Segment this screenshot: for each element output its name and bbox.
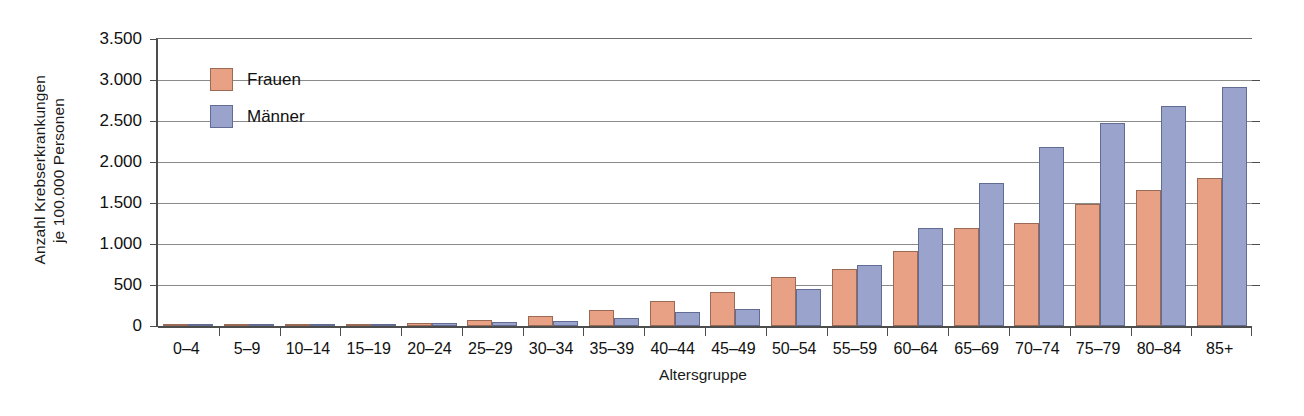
bar-group <box>1070 39 1131 326</box>
x-axis-tick-labels: 0–45–910–1415–1920–2425–2930–3435–3940–4… <box>156 336 1250 362</box>
bar-frauen <box>407 323 432 326</box>
y-axis-tick-mark <box>150 244 158 245</box>
x-axis-tick-label: 0–4 <box>156 336 217 362</box>
bar-maenner <box>614 318 639 326</box>
x-axis-title: Altersgruppe <box>156 366 1250 384</box>
bar-group <box>766 39 827 326</box>
bar-frauen <box>650 301 675 326</box>
bar-frauen <box>893 251 918 326</box>
x-axis-group-separator <box>1009 326 1010 336</box>
bar-group <box>1009 39 1070 326</box>
x-axis-tick-label: 60–64 <box>885 336 946 362</box>
x-axis-tick-label: 35–39 <box>581 336 642 362</box>
x-axis-tick-label: 85+ <box>1189 336 1250 362</box>
bar-chart: Anzahl Krebserkrankungen je 100.000 Pers… <box>0 0 1304 416</box>
legend-item-label: Männer <box>247 107 305 127</box>
x-axis-tick-label: 10–14 <box>278 336 339 362</box>
y-axis-tick-mark-right <box>1252 121 1260 122</box>
legend-swatch-icon <box>210 68 233 91</box>
y-axis-tick-mark <box>150 80 158 81</box>
legend-item: Männer <box>210 105 305 128</box>
bar-frauen <box>710 292 735 326</box>
y-axis-tick-mark-right <box>1252 244 1260 245</box>
bar-groups <box>158 39 1252 326</box>
bar-frauen <box>1136 190 1161 326</box>
bar-group <box>1191 39 1252 326</box>
y-axis-tick-label: 0 <box>133 317 142 334</box>
bar-maenner <box>492 322 517 327</box>
legend-swatch-icon <box>210 105 233 128</box>
bar-group <box>401 39 462 326</box>
y-axis-tick-label: 500 <box>114 276 142 293</box>
y-axis-tick-mark <box>150 121 158 122</box>
x-axis-group-separator <box>340 326 341 336</box>
plot-area <box>156 38 1252 326</box>
bar-maenner <box>979 183 1004 326</box>
y-axis-tick-mark <box>150 285 158 286</box>
bar-maenner <box>675 312 700 326</box>
bar-frauen <box>346 324 371 326</box>
y-axis-tick-label: 2.000 <box>99 153 142 170</box>
y-axis-tick-mark-right <box>1252 162 1260 163</box>
x-axis-group-separator <box>827 326 828 336</box>
x-axis-tick-label: 20–24 <box>399 336 460 362</box>
bar-group <box>644 39 705 326</box>
bar-maenner <box>432 323 457 326</box>
x-axis-tick-label: 65–69 <box>946 336 1007 362</box>
x-axis-tick-label: 15–19 <box>338 336 399 362</box>
x-axis-group-separator <box>1251 326 1252 336</box>
y-axis-tick-label: 1.000 <box>99 235 142 252</box>
bar-group <box>340 39 401 326</box>
legend-item-label: Frauen <box>247 70 301 90</box>
y-axis-tick-labels: 05001.0001.5002.0002.5003.0003.500 <box>78 0 150 340</box>
x-axis-tick-label: 30–34 <box>521 336 582 362</box>
legend-item: Frauen <box>210 68 305 91</box>
legend: FrauenMänner <box>210 68 305 128</box>
y-axis-tick-label: 1.500 <box>99 194 142 211</box>
y-axis-tick-mark <box>150 39 158 40</box>
bar-frauen <box>1014 223 1039 326</box>
y-axis-tick-mark <box>150 162 158 163</box>
y-axis-title: Anzahl Krebserkrankungen je 100.000 Pers… <box>18 0 80 340</box>
x-axis-group-separator <box>462 326 463 336</box>
bar-frauen <box>771 277 796 326</box>
bar-maenner <box>857 265 882 327</box>
x-axis-tick-label: 80–84 <box>1129 336 1190 362</box>
y-axis-tick-label: 3.500 <box>99 30 142 47</box>
bar-frauen <box>224 324 249 326</box>
x-axis-group-separator <box>219 326 220 336</box>
x-axis-tick-label: 5–9 <box>217 336 278 362</box>
bar-maenner <box>1100 123 1125 326</box>
x-axis-group-separator <box>401 326 402 336</box>
x-axis-tick-label: 70–74 <box>1007 336 1068 362</box>
bar-maenner <box>1039 147 1064 326</box>
y-axis-tick-label: 2.500 <box>99 112 142 129</box>
bar-maenner <box>735 309 760 326</box>
bar-frauen <box>285 324 310 326</box>
x-axis-group-separator <box>705 326 706 336</box>
bar-maenner <box>249 324 274 326</box>
x-axis-tick-label: 40–44 <box>642 336 703 362</box>
bar-group <box>523 39 584 326</box>
x-axis-group-separator <box>1070 326 1071 336</box>
bar-maenner <box>1161 106 1186 326</box>
x-axis-tick-label: 50–54 <box>764 336 825 362</box>
bar-maenner <box>796 289 821 326</box>
x-axis-tick-label: 45–49 <box>703 336 764 362</box>
x-axis-tick-label: 25–29 <box>460 336 521 362</box>
bar-maenner <box>918 228 943 326</box>
x-axis-group-separator <box>523 326 524 336</box>
bar-frauen <box>528 316 553 326</box>
y-axis-tick-label: 3.000 <box>99 71 142 88</box>
x-axis-group-separator <box>583 326 584 336</box>
x-axis-group-separator <box>948 326 949 336</box>
bar-frauen <box>1075 204 1100 326</box>
x-axis-tick-label: 75–79 <box>1068 336 1129 362</box>
bar-maenner <box>1222 87 1247 326</box>
y-axis-tick-mark-right <box>1252 80 1260 81</box>
x-axis-group-separator <box>766 326 767 336</box>
bar-frauen <box>954 228 979 326</box>
bar-maenner <box>553 321 578 326</box>
bar-group <box>462 39 523 326</box>
bar-frauen <box>832 269 857 326</box>
